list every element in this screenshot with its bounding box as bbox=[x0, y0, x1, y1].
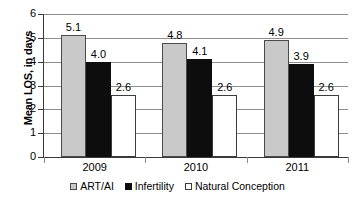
legend-item[interactable]: Infertility bbox=[125, 180, 174, 192]
x-axis-separator-tick bbox=[44, 157, 45, 163]
bar-value-label: 2.6 bbox=[106, 82, 141, 93]
legend-swatch-icon bbox=[70, 183, 77, 190]
bar-value-label: 2.6 bbox=[207, 82, 242, 93]
y-axis-tick-label: 0 bbox=[2, 151, 36, 162]
bar bbox=[187, 59, 212, 157]
legend-label: Infertility bbox=[135, 180, 174, 192]
y-axis-tick-label: 4 bbox=[2, 56, 36, 67]
bar-value-label: 2.6 bbox=[309, 82, 344, 93]
y-axis-tick-label-wrap: 6 bbox=[0, 8, 36, 19]
y-axis-tick bbox=[38, 157, 43, 158]
y-axis-tick bbox=[38, 14, 43, 15]
y-axis-tick-label: 5 bbox=[2, 32, 36, 43]
bar-value-label: 3.9 bbox=[284, 51, 319, 62]
legend-item[interactable]: ART/AI bbox=[70, 180, 114, 192]
plot-area bbox=[44, 14, 348, 157]
bar-value-label: 4.1 bbox=[182, 46, 217, 57]
y-axis-tick-label: 2 bbox=[2, 103, 36, 114]
x-axis-label: 2011 bbox=[247, 161, 348, 173]
bar-value-label: 4.9 bbox=[259, 27, 294, 38]
bar bbox=[162, 43, 187, 157]
bar bbox=[111, 95, 136, 157]
y-axis-tick bbox=[38, 109, 43, 110]
y-axis-tick-label: 1 bbox=[2, 127, 36, 138]
bar-chart: Mean LOS, in days 0123456 5.14.02.64.84.… bbox=[0, 0, 355, 200]
legend-item[interactable]: Natural Conception bbox=[185, 180, 285, 192]
chart-legend: ART/AIInfertilityNatural Conception bbox=[0, 180, 355, 192]
y-axis-tick-label-wrap: 2 bbox=[0, 103, 36, 114]
y-axis-tick-label: 6 bbox=[2, 8, 36, 19]
legend-label: Natural Conception bbox=[195, 180, 285, 192]
bar-value-label: 5.1 bbox=[56, 22, 91, 33]
y-axis-tick bbox=[38, 86, 43, 87]
bar-value-label: 4.0 bbox=[81, 49, 116, 60]
legend-swatch-icon bbox=[125, 183, 132, 190]
y-axis-tick bbox=[38, 62, 43, 63]
y-axis-tick-label: 3 bbox=[2, 80, 36, 91]
y-axis-tick-label-wrap: 5 bbox=[0, 32, 36, 43]
bar bbox=[86, 62, 111, 157]
y-axis-tick-label-wrap: 1 bbox=[0, 127, 36, 138]
bar bbox=[212, 95, 237, 157]
y-axis-tick-label-wrap: 0 bbox=[0, 151, 36, 162]
gridline bbox=[44, 157, 348, 158]
y-axis-tick-label-wrap: 3 bbox=[0, 80, 36, 91]
y-axis-tick-label-wrap: 4 bbox=[0, 56, 36, 67]
x-axis-label: 2009 bbox=[44, 161, 145, 173]
legend-label: ART/AI bbox=[80, 180, 114, 192]
bar bbox=[314, 95, 339, 157]
gridline bbox=[44, 38, 348, 39]
x-axis-label: 2010 bbox=[145, 161, 246, 173]
x-axis-separator-tick bbox=[348, 157, 349, 163]
bar-value-label: 4.8 bbox=[157, 30, 192, 41]
gridline bbox=[44, 14, 348, 15]
y-axis-tick bbox=[38, 38, 43, 39]
legend-swatch-icon bbox=[185, 183, 192, 190]
bar bbox=[289, 64, 314, 157]
y-axis-tick bbox=[38, 133, 43, 134]
